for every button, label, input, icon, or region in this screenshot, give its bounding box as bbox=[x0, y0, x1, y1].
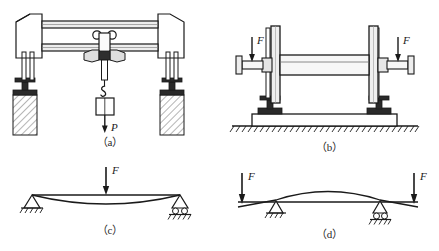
load-label-P: P bbox=[110, 121, 118, 133]
beam-deflected-curve-d bbox=[238, 192, 418, 208]
load-arrow-P bbox=[102, 115, 108, 133]
left-pin-support bbox=[20, 195, 43, 213]
load-arrow-F-right bbox=[395, 37, 401, 62]
load-label-F-right-b: F bbox=[402, 34, 410, 46]
load-label-F-left-b: F bbox=[256, 34, 264, 46]
caption-a: （a） bbox=[0, 133, 220, 149]
hatched-foundation-right bbox=[160, 95, 184, 135]
right-roller-support bbox=[168, 195, 191, 220]
lifted-load-block bbox=[96, 98, 114, 115]
upper-girder bbox=[42, 21, 158, 28]
load-arrow-F-left bbox=[249, 37, 255, 62]
lifting-hook bbox=[101, 80, 106, 96]
right-column-legs bbox=[166, 52, 178, 80]
right-journal bbox=[378, 56, 414, 74]
caption-d: （d） bbox=[220, 225, 439, 241]
load-arrow-F-right-d bbox=[411, 173, 417, 204]
caption-c: （c） bbox=[0, 221, 220, 237]
right-column-head bbox=[158, 14, 184, 58]
panel-c-simply-supported-beam: F bbox=[0, 155, 220, 251]
caption-b: （b） bbox=[220, 138, 439, 154]
beam-deflected-curve bbox=[32, 195, 180, 204]
panel-a-overhead-crane: P （a） bbox=[0, 0, 220, 150]
load-arrow-F-left-d bbox=[239, 173, 245, 204]
left-pin-support-d bbox=[265, 201, 286, 218]
ground-hatching bbox=[230, 126, 419, 132]
panel-b-shaft-assembly: F F （b） bbox=[220, 0, 439, 155]
load-label-F-left-d: F bbox=[247, 170, 255, 182]
left-journal bbox=[236, 56, 272, 74]
left-rail-base bbox=[13, 78, 37, 95]
engineering-figure: P （a） bbox=[0, 0, 439, 251]
left-column-head bbox=[16, 14, 42, 58]
load-arrow-F-mid bbox=[103, 167, 109, 195]
panel-b-drawing: F F bbox=[220, 0, 439, 155]
base-plate bbox=[252, 114, 397, 126]
load-label-F-mid: F bbox=[111, 164, 119, 176]
right-rail-base bbox=[160, 78, 184, 95]
left-column-legs bbox=[22, 52, 34, 80]
panel-a-drawing: P bbox=[0, 0, 220, 150]
load-label-F-right-d: F bbox=[419, 170, 427, 182]
panel-d-overhanging-beam: F F bbox=[220, 155, 439, 251]
trolley-hoist bbox=[84, 31, 125, 80]
right-flange-disc bbox=[369, 26, 378, 103]
central-shaft bbox=[280, 55, 369, 75]
hatched-foundation-left bbox=[13, 95, 37, 135]
right-roller-support-d bbox=[369, 201, 391, 225]
